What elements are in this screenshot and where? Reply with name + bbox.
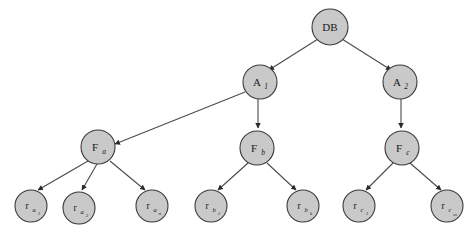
node-a2-label: A — [393, 76, 401, 88]
node-rcm-circle[interactable] — [431, 190, 463, 222]
node-ra1[interactable]: r a 1 — [15, 190, 47, 222]
tree-diagram: DB A 1 A 2 F a F b F c — [0, 0, 475, 233]
node-rcm-subscript2: m — [453, 212, 457, 217]
node-fc-label: F — [396, 142, 402, 154]
edge-fc-rcm — [410, 163, 441, 190]
edge-fa-ra2 — [82, 164, 97, 190]
node-rb1-circle[interactable] — [195, 190, 227, 222]
node-rbk[interactable]: r b k — [287, 190, 319, 222]
node-rc1-subscript: c — [361, 206, 364, 213]
node-a2[interactable]: A 2 — [383, 65, 417, 99]
node-fb-label: F — [251, 142, 257, 154]
edge-a1-fa — [115, 92, 245, 144]
node-a1-label: A — [253, 76, 261, 88]
figure-canvas: DB A 1 A 2 F a F b F c — [0, 0, 475, 233]
node-fa-label: F — [92, 141, 98, 153]
edge-fa-ra1 — [38, 161, 88, 190]
edge-fc-rc1 — [366, 163, 393, 190]
node-ra1-subscript2: 1 — [38, 211, 41, 216]
node-ra2-subscript: a — [80, 208, 83, 215]
node-ra1-circle[interactable] — [15, 190, 47, 222]
edge-fa-ran — [110, 161, 145, 190]
node-ran-subscript: a — [153, 206, 156, 213]
node-rb1-subscript2: 1 — [218, 211, 221, 216]
node-rcm[interactable]: r c m — [431, 190, 463, 222]
node-rc1-circle[interactable] — [343, 190, 375, 222]
node-ran[interactable]: r a n — [136, 190, 168, 222]
node-rcm-subscript: c — [449, 206, 452, 213]
node-fb[interactable]: F b — [240, 131, 274, 165]
node-rc1-subscript2: 1 — [366, 211, 369, 216]
node-ra2[interactable]: r a 2 — [63, 192, 95, 224]
node-a1[interactable]: A 1 — [243, 65, 277, 99]
edge-db-a1 — [269, 39, 318, 70]
node-rb1[interactable]: r b 1 — [195, 190, 227, 222]
node-a2-subscript: 2 — [404, 82, 408, 91]
node-db-label: DB — [322, 21, 337, 33]
node-ran-circle[interactable] — [136, 190, 168, 222]
edge-fb-rb1 — [218, 163, 248, 190]
node-db[interactable]: DB — [312, 9, 348, 45]
node-a1-subscript: 1 — [264, 82, 268, 91]
edge-db-a2 — [342, 39, 391, 70]
node-rc1[interactable]: r c 1 — [343, 190, 375, 222]
node-fa-subscript: a — [102, 147, 106, 156]
node-fb-subscript: b — [261, 148, 265, 157]
edge-fb-rbk — [267, 163, 296, 190]
edge-group — [38, 39, 441, 190]
node-fa[interactable]: F a — [81, 130, 115, 164]
node-ra1-subscript: a — [32, 206, 35, 213]
node-ra2-circle[interactable] — [63, 192, 95, 224]
node-fc[interactable]: F c — [385, 131, 419, 165]
node-rbk-circle[interactable] — [287, 190, 319, 222]
